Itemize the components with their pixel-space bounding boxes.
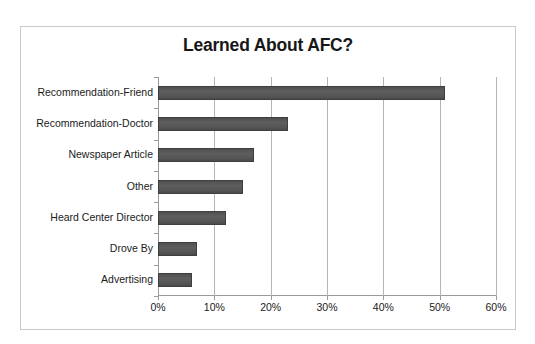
bar-fill [158, 242, 197, 256]
y-axis-label-newspaper-article: Newspaper Article [23, 148, 158, 160]
bar-fill [158, 211, 226, 225]
gridline-20% [271, 77, 272, 296]
bar-fill [158, 148, 254, 162]
bar-fill [158, 273, 192, 287]
x-axis-label-60%: 60% [485, 301, 506, 313]
y-axis-category-labels: Recommendation-FriendRecommendation-Doct… [21, 77, 158, 296]
bar-advertising [158, 273, 192, 287]
y-axis-label-recommendation-doctor: Recommendation-Doctor [23, 117, 158, 129]
bar-recommendation-friend [158, 86, 445, 100]
y-axis-tick [154, 77, 158, 78]
x-axis-label-40%: 40% [373, 301, 394, 313]
y-axis-tick [154, 233, 158, 234]
x-axis-tick [440, 296, 441, 300]
x-axis-tick [496, 296, 497, 300]
y-axis-tick [154, 265, 158, 266]
gridline-60% [496, 77, 497, 296]
y-axis-label-drove-by: Drove By [23, 242, 158, 254]
x-axis-label-50%: 50% [429, 301, 450, 313]
x-axis-label-10%: 10% [204, 301, 225, 313]
bar-fill [158, 180, 243, 194]
y-axis-tick [154, 296, 158, 297]
y-axis-label-other: Other [23, 180, 158, 192]
bar-other [158, 180, 243, 194]
x-axis-label-30%: 30% [316, 301, 337, 313]
x-axis-label-20%: 20% [260, 301, 281, 313]
bar-heard-center-director [158, 211, 226, 225]
y-axis-tick [154, 140, 158, 141]
y-axis-tick [154, 171, 158, 172]
gridline-50% [440, 77, 441, 296]
y-axis-label-recommendation-friend: Recommendation-Friend [23, 86, 158, 98]
x-axis-tick [158, 296, 159, 300]
y-axis-tick [154, 202, 158, 203]
x-axis-tick [327, 296, 328, 300]
y-axis-tick [154, 108, 158, 109]
chart-title: Learned About AFC? [21, 35, 515, 56]
x-axis-tick [271, 296, 272, 300]
x-axis-tick [214, 296, 215, 300]
y-axis-label-heard-center-director: Heard Center Director [23, 211, 158, 223]
bar-recommendation-doctor [158, 117, 288, 131]
chart-frame: Learned About AFC? Recommendation-Friend… [20, 26, 516, 330]
x-axis-label-0%: 0% [150, 301, 165, 313]
plot-area: 0%10%20%30%40%50%60% [158, 77, 496, 296]
bar-drove-by [158, 242, 197, 256]
bar-fill [158, 117, 288, 131]
x-axis-tick [383, 296, 384, 300]
gridline-30% [327, 77, 328, 296]
gridline-40% [383, 77, 384, 296]
bar-newspaper-article [158, 148, 254, 162]
y-axis-label-advertising: Advertising [23, 273, 158, 285]
bar-fill [158, 86, 445, 100]
